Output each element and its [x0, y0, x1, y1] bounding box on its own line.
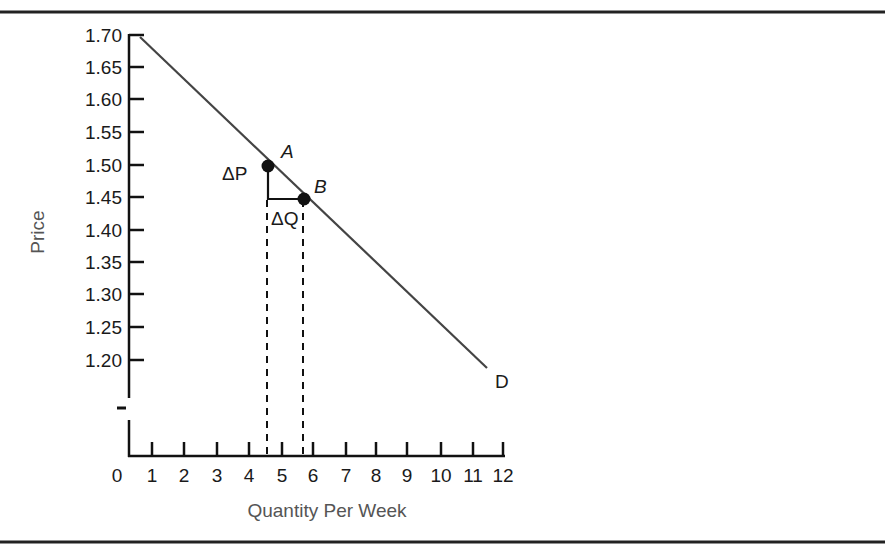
- x-ticks: 0123456789101112: [112, 442, 514, 486]
- demand-label: D: [495, 371, 509, 392]
- point-a: [262, 160, 275, 173]
- x-axis-title: Quantity Per Week: [247, 500, 407, 521]
- y-axis: 1.701.651.601.551.501.451.401.351.301.25…: [85, 25, 144, 457]
- y-tick-label: 1.45: [85, 187, 122, 208]
- y-tick-label: 1.25: [85, 317, 122, 338]
- y-tick-label: 1.35: [85, 252, 122, 273]
- delta-triangle: [268, 166, 303, 199]
- x-tick-label: 10: [430, 465, 451, 486]
- x-axis: 0123456789101112: [112, 442, 514, 486]
- y-tick-label: 1.70: [85, 25, 122, 46]
- x-tick-label: 3: [212, 465, 223, 486]
- y-ticks: 1.701.651.601.551.501.451.401.351.301.25…: [85, 25, 144, 371]
- y-axis-title: Price: [27, 210, 48, 253]
- chart-canvas: 1.701.651.601.551.501.451.401.351.301.25…: [0, 0, 885, 557]
- x-tick-label: 6: [308, 465, 319, 486]
- point-b-label: B: [314, 176, 327, 197]
- x-tick-label: 4: [244, 465, 255, 486]
- x-tick-label: 9: [402, 465, 413, 486]
- delta-q-label: ΔQ: [271, 208, 298, 229]
- point-b: [298, 193, 311, 206]
- x-tick-label: 0: [112, 465, 123, 486]
- x-tick-label: 5: [277, 465, 288, 486]
- point-a-label: A: [280, 141, 294, 162]
- y-tick-label: 1.40: [85, 220, 122, 241]
- x-tick-label: 7: [341, 465, 352, 486]
- x-tick-label: 11: [463, 465, 483, 486]
- y-tick-label: 1.20: [85, 350, 122, 371]
- y-tick-label: 1.30: [85, 284, 122, 305]
- x-tick-label: 8: [371, 465, 382, 486]
- x-tick-label: 1: [147, 465, 158, 486]
- x-tick-label: 2: [179, 465, 190, 486]
- y-tick-label: 1.65: [85, 57, 122, 78]
- demand-curve: [140, 37, 487, 368]
- y-tick-label: 1.55: [85, 122, 122, 143]
- y-tick-label: 1.60: [85, 89, 122, 110]
- x-tick-label: 12: [492, 465, 513, 486]
- y-tick-label: 1.50: [85, 155, 122, 176]
- delta-p-label: ΔP: [222, 163, 247, 184]
